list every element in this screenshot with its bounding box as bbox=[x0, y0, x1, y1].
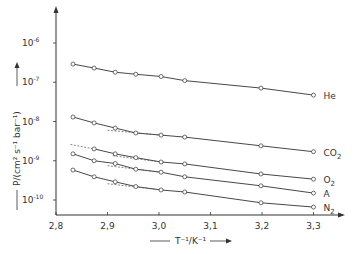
series-label: CO2 bbox=[324, 148, 342, 161]
y-tick-label: 10-6 bbox=[22, 36, 40, 48]
series-label: A bbox=[324, 189, 331, 199]
data-point bbox=[259, 86, 263, 90]
data-point bbox=[159, 75, 163, 79]
x-tick-label: 2,8 bbox=[49, 221, 64, 231]
dashed-extrapolation bbox=[70, 144, 94, 148]
y-axis-arrow-icon bbox=[54, 6, 59, 13]
data-point bbox=[183, 190, 187, 194]
data-point bbox=[259, 201, 263, 205]
data-point bbox=[134, 131, 138, 135]
data-point bbox=[183, 162, 187, 166]
data-point bbox=[134, 156, 138, 160]
series-label: N2 bbox=[324, 203, 335, 216]
data-point bbox=[92, 159, 96, 163]
series-label: O2 bbox=[324, 175, 336, 188]
y-tick-label: 10-9 bbox=[22, 154, 40, 166]
series-label: He bbox=[324, 91, 337, 101]
series-o2: O2 bbox=[70, 144, 335, 188]
data-point bbox=[159, 188, 163, 192]
data-point bbox=[71, 152, 75, 156]
x-tick-label: 3,2 bbox=[255, 221, 269, 231]
y-axis-ticks: 10-610-710-810-910-10 bbox=[22, 36, 56, 205]
x-axis-label: T⁻¹/K⁻¹ bbox=[174, 236, 207, 246]
data-point bbox=[92, 175, 96, 179]
data-point bbox=[259, 184, 263, 188]
data-point bbox=[312, 150, 316, 154]
x-axis-title: T⁻¹/K⁻¹ bbox=[150, 236, 232, 246]
data-point bbox=[71, 168, 75, 172]
series-n2: N2 bbox=[71, 168, 335, 216]
data-point bbox=[92, 66, 96, 70]
data-point bbox=[312, 177, 316, 181]
data-point bbox=[134, 72, 138, 76]
x-tick-label: 3,3 bbox=[306, 221, 320, 231]
data-point bbox=[183, 79, 187, 83]
axes bbox=[54, 6, 346, 218]
data-point bbox=[159, 170, 163, 174]
x-title-arrow-icon bbox=[226, 239, 232, 244]
data-point bbox=[183, 135, 187, 139]
x-axis-arrow-icon bbox=[338, 213, 345, 218]
data-point bbox=[92, 121, 96, 125]
data-point bbox=[134, 185, 138, 189]
data-point bbox=[183, 175, 187, 179]
series-line bbox=[73, 154, 314, 193]
data-point bbox=[259, 144, 263, 148]
y-axis-label: P/(cm² s⁻¹ bar⁻¹) bbox=[12, 111, 22, 186]
series-a: A bbox=[71, 152, 331, 199]
data-point bbox=[92, 147, 96, 151]
x-tick-label: 2,9 bbox=[100, 221, 115, 231]
y-axis-title: P/(cm² s⁻¹ bar⁻¹) bbox=[12, 62, 22, 210]
data-point bbox=[113, 180, 117, 184]
data-point bbox=[159, 160, 163, 164]
y-title-arrow-icon bbox=[15, 62, 20, 68]
data-point bbox=[113, 126, 117, 130]
permeability-chart: 2,82,93,03,13,23,3 10-610-710-810-910-10… bbox=[0, 0, 358, 254]
series-line bbox=[94, 149, 313, 179]
data-point bbox=[113, 152, 117, 156]
data-point bbox=[71, 115, 75, 119]
y-tick-label: 10-7 bbox=[22, 75, 40, 87]
data-point bbox=[71, 62, 75, 66]
data-point bbox=[312, 191, 316, 195]
x-tick-label: 3,1 bbox=[203, 221, 217, 231]
y-tick-label: 10-8 bbox=[22, 115, 40, 127]
y-tick-label: 10-10 bbox=[22, 193, 43, 205]
series-line bbox=[73, 117, 314, 152]
data-point bbox=[113, 162, 117, 166]
series-he: He bbox=[71, 62, 336, 101]
data-point bbox=[312, 205, 316, 209]
data-point bbox=[259, 172, 263, 176]
data-point bbox=[312, 93, 316, 97]
series-line bbox=[73, 64, 314, 95]
x-tick-label: 3,0 bbox=[152, 221, 167, 231]
data-point bbox=[113, 70, 117, 74]
series-co2: CO2 bbox=[71, 115, 341, 161]
data-point bbox=[134, 167, 138, 171]
series-group: HeCO2O2AN2 bbox=[70, 62, 341, 216]
data-point bbox=[159, 133, 163, 137]
